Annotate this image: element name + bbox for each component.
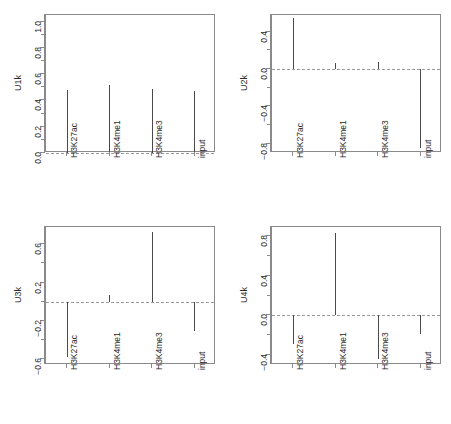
x-tick-label-h3k4me3: H3K4me3 <box>381 332 390 370</box>
x-tick-label-input: input <box>198 352 207 370</box>
x-tick-label-h3k27ac: H3K27ac <box>296 123 305 158</box>
x-tick <box>377 364 378 368</box>
y-tick <box>267 295 271 296</box>
x-tick-label-h3k4me3: H3K4me3 <box>155 332 164 370</box>
y-tick <box>41 113 45 114</box>
y-tick-label: 1.0 <box>34 21 43 33</box>
y-tick <box>41 139 45 140</box>
y-tick <box>267 255 271 256</box>
y-tick <box>267 49 271 50</box>
x-tick <box>194 364 195 368</box>
panel-u2k: −0.8−0.40.00.4U2kH3K27acH3K4me1H3K4me3in… <box>226 0 451 212</box>
y-tick-label: 0.4 <box>260 275 269 287</box>
spike-h3k4me3 <box>378 62 379 69</box>
y-tick-label: 0.6 <box>34 243 43 255</box>
spike-input <box>420 315 421 334</box>
x-tick <box>292 152 293 156</box>
spike-h3k27ac <box>293 18 294 69</box>
spike-h3k4me1 <box>109 85 110 153</box>
x-tick-label-h3k27ac: H3K27ac <box>70 335 79 370</box>
y-tick-label: 0.8 <box>34 47 43 59</box>
spike-h3k4me3 <box>378 315 379 359</box>
spike-h3k4me1 <box>335 63 336 70</box>
zero-reference-line <box>46 302 214 303</box>
spike-h3k27ac <box>67 90 68 153</box>
y-tick <box>41 60 45 61</box>
y-tick <box>41 262 45 263</box>
x-tick <box>151 152 152 156</box>
y-axis-title: U2k <box>240 75 249 91</box>
panel-u3k: −0.6−0.20.20.6U3kH3K27acH3K4me1H3K4me3in… <box>0 212 225 424</box>
x-tick-label-h3k4me1: H3K4me1 <box>339 120 348 158</box>
x-tick <box>377 152 378 156</box>
y-tick-label: −0.4 <box>260 354 269 371</box>
y-tick <box>41 34 45 35</box>
y-axis-title: U3k <box>14 287 23 303</box>
y-tick-label: 0.8 <box>260 235 269 247</box>
y-tick <box>267 87 271 88</box>
y-tick <box>41 339 45 340</box>
x-tick <box>335 364 336 368</box>
zero-reference-line <box>272 69 440 70</box>
x-tick-label-h3k4me1: H3K4me1 <box>339 332 348 370</box>
x-tick <box>420 364 421 368</box>
x-tick <box>66 152 67 156</box>
spike-input <box>194 91 195 153</box>
x-tick-label-input: input <box>198 140 207 158</box>
x-tick <box>292 364 293 368</box>
y-tick-label: −0.6 <box>34 358 43 375</box>
x-tick <box>151 364 152 368</box>
panel-u4k: −0.40.00.40.8U4kH3K27acH3K4me1H3K4me3inp… <box>226 212 451 424</box>
y-tick-label: 0.2 <box>34 126 43 138</box>
y-tick-label: −0.4 <box>260 105 269 122</box>
y-tick-label: 0.0 <box>260 314 269 326</box>
spike-h3k27ac <box>67 302 68 358</box>
y-axis <box>270 14 271 152</box>
y-tick-label: −0.8 <box>260 143 269 160</box>
x-tick-label-h3k4me3: H3K4me3 <box>155 120 164 158</box>
x-tick-label-input: input <box>424 352 433 370</box>
spike-input <box>420 69 421 148</box>
y-tick-label: 0.4 <box>34 99 43 111</box>
x-tick <box>109 152 110 156</box>
y-tick <box>41 301 45 302</box>
y-axis-title: U4k <box>240 287 249 303</box>
y-tick-label: 0.0 <box>34 152 43 164</box>
x-tick-label-input: input <box>424 140 433 158</box>
x-tick <box>420 152 421 156</box>
y-tick-label: 0.4 <box>260 31 269 43</box>
spike-h3k4me3 <box>152 89 153 153</box>
x-tick-label-h3k27ac: H3K27ac <box>296 335 305 370</box>
x-tick <box>66 364 67 368</box>
y-tick-label: 0.0 <box>260 68 269 80</box>
figure-canvas: 0.00.20.40.60.81.0U1kH3K27acH3K4me1H3K4m… <box>0 0 451 424</box>
y-tick <box>267 124 271 125</box>
spike-h3k4me1 <box>109 295 110 302</box>
x-tick <box>109 364 110 368</box>
y-tick-label: 0.2 <box>34 282 43 294</box>
x-tick-label-h3k4me1: H3K4me1 <box>113 332 122 370</box>
spike-h3k4me3 <box>152 232 153 302</box>
x-tick-label-h3k4me1: H3K4me1 <box>113 120 122 158</box>
x-tick <box>194 152 195 156</box>
y-tick <box>41 86 45 87</box>
zero-reference-line <box>272 315 440 316</box>
panel-u1k: 0.00.20.40.60.81.0U1kH3K27acH3K4me1H3K4m… <box>0 0 225 212</box>
x-tick-label-h3k27ac: H3K27ac <box>70 123 79 158</box>
x-tick-label-h3k4me3: H3K4me3 <box>381 120 390 158</box>
y-tick <box>267 334 271 335</box>
spike-h3k27ac <box>293 315 294 344</box>
y-axis-title: U1k <box>14 75 23 91</box>
y-tick-label: −0.2 <box>34 320 43 337</box>
spike-h3k4me1 <box>335 233 336 315</box>
spike-input <box>194 302 195 331</box>
x-tick <box>335 152 336 156</box>
y-tick-label: 0.6 <box>34 73 43 85</box>
y-axis <box>44 226 45 364</box>
